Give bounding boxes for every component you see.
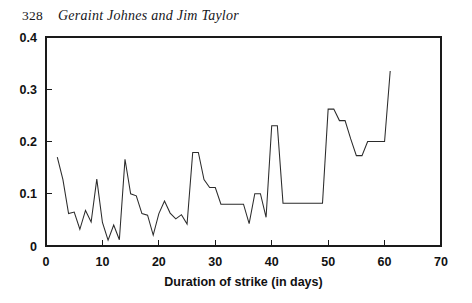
x-tick-label: 20: [152, 255, 166, 269]
line-chart: 00.10.20.30.4010203040506070Duration of …: [0, 26, 472, 303]
y-tick-label: 0.2: [20, 135, 37, 149]
x-axis-title: Duration of strike (in days): [164, 275, 322, 289]
y-tick-label: 0: [30, 240, 37, 254]
x-tick-label: 10: [95, 255, 109, 269]
running-head: 328 Geraint Johnes and Jim Taylor: [0, 8, 472, 28]
x-tick-label: 0: [43, 255, 50, 269]
data-series-line: [57, 71, 390, 240]
x-tick-label: 60: [378, 255, 392, 269]
x-tick-label: 50: [321, 255, 335, 269]
y-tick-label: 0.4: [20, 31, 37, 45]
running-head-title: Geraint Johnes and Jim Taylor: [58, 8, 239, 24]
x-tick-label: 30: [208, 255, 222, 269]
figure-hazard-rate-chart: 00.10.20.30.4010203040506070Duration of …: [0, 26, 472, 303]
x-tick-label: 70: [434, 255, 448, 269]
y-tick-label: 0.3: [20, 83, 37, 97]
page-number: 328: [22, 8, 43, 24]
y-tick-label: 0.1: [20, 187, 37, 201]
x-tick-label: 40: [265, 255, 279, 269]
